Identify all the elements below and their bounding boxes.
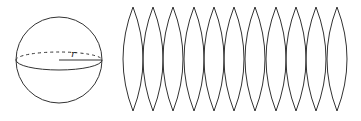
- gore-lens: [184, 7, 204, 111]
- gore-lens: [163, 7, 183, 111]
- gore-lens: [245, 7, 265, 111]
- radius-label: r: [71, 48, 77, 59]
- gore-lens: [204, 7, 224, 111]
- gores-strip: [123, 7, 347, 111]
- gore-lens: [327, 7, 347, 111]
- sphere-and-gores-diagram: r: [0, 0, 361, 121]
- sphere: [16, 17, 102, 103]
- gore-lens: [123, 7, 143, 111]
- gore-lens: [143, 7, 163, 111]
- gore-lens: [306, 7, 326, 111]
- gore-lens: [286, 7, 306, 111]
- equator-front: [16, 60, 102, 70]
- equator-back-dashed: [16, 52, 102, 60]
- gore-lens: [266, 7, 286, 111]
- gore-lens: [224, 7, 244, 111]
